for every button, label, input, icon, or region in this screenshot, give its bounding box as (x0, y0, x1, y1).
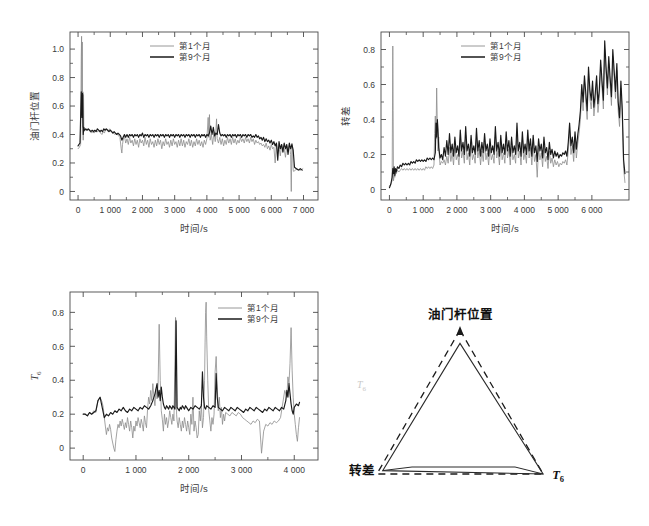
chart-panel-slip: 00.20.40.60.801 0002 0003 0004 0005 0006… (333, 16, 643, 256)
svg-text:0: 0 (81, 465, 86, 475)
svg-text:4 000: 4 000 (514, 205, 536, 215)
slip-xaxis-label: 时间/s (491, 223, 519, 234)
radar-top-arrow-icon (456, 326, 463, 335)
svg-text:0.2: 0.2 (363, 150, 375, 160)
chart-panel-radar: 油门杆位置转差T6T6 (333, 276, 643, 516)
svg-text:3 000: 3 000 (480, 205, 502, 215)
svg-text:6 000: 6 000 (581, 205, 603, 215)
svg-text:5 000: 5 000 (548, 205, 570, 215)
throttle-position-chart: 00.20.40.60.81.001 0002 0003 0004 0005 0… (22, 16, 332, 256)
chart-panel-throttle: 00.20.40.60.81.001 0002 0003 0004 0005 0… (22, 16, 332, 256)
svg-text:2 000: 2 000 (132, 205, 154, 215)
throttle-xaxis-label: 时间/s (180, 223, 208, 234)
svg-text:0: 0 (59, 443, 64, 453)
slip-chart: 00.20.40.60.801 0002 0003 0004 0005 0006… (333, 16, 643, 256)
svg-text:0: 0 (76, 205, 81, 215)
svg-text:0.2: 0.2 (52, 158, 64, 168)
svg-text:3 000: 3 000 (164, 205, 186, 215)
svg-text:1.0: 1.0 (52, 44, 64, 54)
t6-chart: 00.20.40.60.801 0002 0003 0004 000时间/sT6… (22, 276, 332, 516)
svg-text:3 000: 3 000 (231, 465, 253, 475)
radar-vertex-label-top: 油门杆位置 (428, 307, 493, 322)
svg-text:7 000: 7 000 (293, 205, 315, 215)
svg-text:1 000: 1 000 (125, 465, 147, 475)
svg-text:0: 0 (387, 205, 392, 215)
radar-vertex-label-left: 转差 (349, 463, 375, 478)
t6-xaxis-label: 时间/s (180, 483, 208, 494)
svg-text:0.6: 0.6 (363, 80, 375, 90)
legend-label: 第9个月 (247, 314, 279, 324)
legend-label: 第1个月 (179, 41, 211, 51)
svg-text:0: 0 (370, 185, 375, 195)
radar-ghost-label: T6 (357, 379, 367, 393)
radar-diagram: 油门杆位置转差T6T6 (333, 276, 643, 516)
svg-text:0.4: 0.4 (363, 115, 375, 125)
svg-text:2 000: 2 000 (446, 205, 468, 215)
svg-text:0: 0 (59, 187, 64, 197)
radar-actual-polygon (383, 343, 543, 474)
svg-text:0.8: 0.8 (363, 45, 375, 55)
radar-vertex-label-right: T6 (552, 468, 564, 485)
legend-label: 第1个月 (490, 41, 522, 51)
throttle-yaxis-label: 油门杆位置 (29, 91, 40, 141)
t6-yaxis-label: T6 (29, 371, 43, 381)
svg-text:1 000: 1 000 (100, 205, 122, 215)
svg-text:0.6: 0.6 (52, 342, 64, 352)
svg-text:1 000: 1 000 (413, 205, 435, 215)
svg-text:0.4: 0.4 (52, 375, 64, 385)
svg-text:0.8: 0.8 (52, 308, 64, 318)
radar-reference-polygon (377, 330, 543, 474)
svg-text:0.2: 0.2 (52, 409, 64, 419)
radar-inner-leg-left (383, 467, 412, 471)
svg-text:0.8: 0.8 (52, 73, 64, 83)
svg-text:4 000: 4 000 (284, 465, 306, 475)
svg-text:0.6: 0.6 (52, 101, 64, 111)
legend-label: 第9个月 (179, 52, 211, 62)
slip-yaxis-label: 转差 (340, 106, 351, 126)
chart-panel-t6: 00.20.40.60.801 0002 0003 0004 000时间/sT6… (22, 276, 332, 516)
throttle-legend: 第1个月第9个月 (150, 41, 211, 62)
t6-legend: 第1个月第9个月 (218, 303, 279, 324)
svg-text:0.4: 0.4 (52, 130, 64, 140)
legend-label: 第1个月 (247, 303, 279, 313)
legend-label: 第9个月 (490, 52, 522, 62)
svg-text:4 000: 4 000 (196, 205, 218, 215)
slip-legend: 第1个月第9个月 (461, 41, 522, 62)
svg-text:2 000: 2 000 (178, 465, 200, 475)
svg-text:6 000: 6 000 (261, 205, 283, 215)
svg-text:5 000: 5 000 (228, 205, 250, 215)
